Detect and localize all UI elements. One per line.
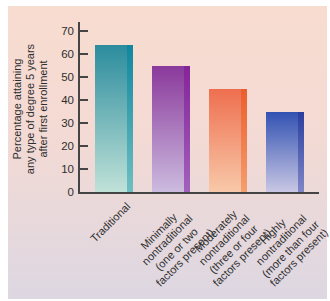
bar-1 bbox=[152, 66, 190, 193]
y-tick-mark bbox=[80, 145, 88, 147]
bar-shadow-edge bbox=[127, 45, 133, 192]
bar-0 bbox=[95, 45, 133, 192]
bar-shadow-edge bbox=[184, 66, 190, 193]
y-axis-title-line: after first enrollment bbox=[37, 44, 50, 174]
bar-2 bbox=[209, 89, 247, 193]
y-tick-label: 60 bbox=[42, 47, 74, 61]
plot-area: Percentage attaining any type of degree … bbox=[8, 6, 327, 299]
y-tick-mark bbox=[80, 76, 88, 78]
x-category-label: Traditional bbox=[88, 200, 133, 245]
bar-fill bbox=[95, 45, 127, 192]
y-tick-label: 30 bbox=[42, 116, 74, 130]
y-axis-title-line: any type of degree 5 years bbox=[24, 44, 37, 174]
bar-fill bbox=[266, 112, 298, 193]
bar-fill bbox=[152, 66, 184, 193]
bar-shadow-edge bbox=[241, 89, 247, 193]
y-tick-label: 0 bbox=[42, 185, 74, 199]
bar-fill bbox=[209, 89, 241, 193]
y-tick-mark bbox=[80, 53, 88, 55]
y-axis-title: Percentage attaining any type of degree … bbox=[11, 44, 50, 174]
y-tick-mark bbox=[80, 30, 88, 32]
y-tick-label: 20 bbox=[42, 139, 74, 153]
y-tick-mark bbox=[80, 99, 88, 101]
y-tick-label: 70 bbox=[42, 24, 74, 38]
y-tick-mark bbox=[80, 168, 88, 170]
x-axis-line bbox=[78, 192, 319, 194]
y-tick-label: 40 bbox=[42, 93, 74, 107]
x-category-label: Highlynontraditional(more than fourfacto… bbox=[241, 200, 330, 289]
chart-panel: Percentage attaining any type of degree … bbox=[8, 6, 327, 299]
bar-shadow-edge bbox=[298, 112, 304, 193]
y-tick-label: 10 bbox=[42, 162, 74, 176]
figure: Percentage attaining any type of degree … bbox=[0, 0, 330, 301]
bar-3 bbox=[266, 112, 304, 193]
y-axis-title-line: Percentage attaining bbox=[11, 44, 24, 174]
y-tick-mark bbox=[80, 122, 88, 124]
x-category-label-line: Traditional bbox=[88, 200, 133, 245]
y-tick-label: 50 bbox=[42, 70, 74, 84]
